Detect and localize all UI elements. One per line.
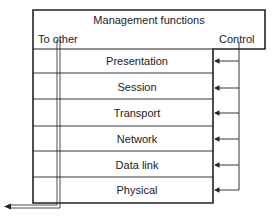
to-other-line-inner	[10, 40, 60, 208]
control-label: Control	[219, 33, 254, 45]
layer-data-link: Data link	[116, 159, 159, 171]
layer-presentation: Presentation	[106, 55, 168, 67]
layer-physical: Physical	[117, 184, 158, 196]
layer-transport: Transport	[114, 107, 161, 119]
to-other-label: To other	[38, 33, 78, 45]
to-other-arrow-icon	[4, 204, 11, 210]
layer-session: Session	[117, 81, 156, 93]
management-functions-title: Management functions	[93, 14, 204, 26]
layer-network: Network	[117, 133, 157, 145]
